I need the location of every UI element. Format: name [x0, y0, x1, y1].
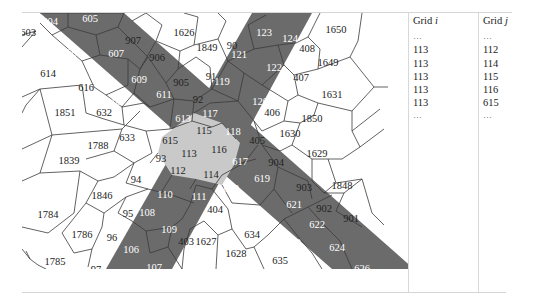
- cell-label-1788: 1788: [88, 140, 109, 151]
- cell-label-906: 906: [149, 52, 165, 63]
- cell-label-114: 114: [203, 169, 219, 180]
- grid-j-cell: …: [483, 30, 523, 43]
- cell-label-618: 618: [223, 183, 239, 194]
- grid-i-column: Grid i … 113 113 113 113 113 …: [413, 14, 473, 123]
- grid-i-cell: …: [413, 30, 473, 43]
- cell-label-1784: 1784: [38, 209, 60, 220]
- cell-label-118: 118: [225, 126, 240, 137]
- cell-label-635: 635: [272, 255, 288, 266]
- cell-label-1851: 1851: [55, 107, 76, 118]
- cell-label-407: 407: [293, 72, 309, 83]
- grid-j-header-prefix: Grid: [483, 15, 505, 26]
- grid-i-cell: 113: [413, 70, 473, 83]
- cell-label-609: 609: [131, 74, 147, 85]
- grid-j-cell: 116: [483, 83, 523, 96]
- cell-label-1630: 1630: [280, 128, 301, 139]
- cell-label-124: 124: [282, 33, 299, 44]
- cell-label-622: 622: [309, 219, 325, 230]
- cell-label-406: 406: [264, 107, 280, 118]
- cell-label-108: 108: [139, 207, 155, 218]
- grid-j-cell: 115: [483, 70, 523, 83]
- grid-j-cell: …: [483, 109, 523, 122]
- cell-label-1786: 1786: [72, 229, 93, 240]
- cell-label-408: 408: [299, 43, 315, 54]
- grid-j-header: Grid j: [483, 14, 523, 27]
- cell-label-122: 122: [266, 62, 282, 73]
- cell-label-115: 115: [196, 125, 211, 136]
- cell-label-106: 106: [123, 244, 139, 255]
- cell-label-123: 123: [256, 27, 272, 38]
- cell-label-1631: 1631: [322, 89, 343, 100]
- voronoi-grid-diagram: 6046056036066079071626184990123124408165…: [22, 13, 408, 269]
- cell-label-905: 905: [173, 77, 189, 88]
- cell-label-623: 623: [285, 237, 301, 248]
- grid-i-cell: 113: [413, 43, 473, 56]
- cell-label-119: 119: [214, 76, 229, 87]
- cell-label-95: 95: [123, 208, 134, 219]
- grid-j-cell: 615: [483, 96, 523, 109]
- cell-label-633: 633: [119, 132, 135, 143]
- table-bottom-rule: [22, 292, 506, 293]
- cell-label-625: 625: [303, 264, 319, 269]
- grid-j-cell: 114: [483, 57, 523, 70]
- cell-label-1629: 1629: [307, 148, 328, 159]
- cell-label-109: 109: [161, 224, 177, 235]
- cell-label-1650: 1650: [326, 24, 347, 35]
- cell-label-92: 92: [193, 94, 204, 105]
- cell-label-613: 613: [175, 113, 191, 124]
- cell-label-614: 614: [40, 68, 57, 79]
- cell-label-94: 94: [131, 174, 142, 185]
- cell-label-1785: 1785: [45, 256, 66, 267]
- grid-i-header-prefix: Grid: [413, 15, 435, 26]
- cell-label-604: 604: [42, 16, 59, 27]
- cell-label-903: 903: [296, 182, 312, 193]
- cell-label-616: 616: [78, 82, 94, 93]
- cell-label-612: 612: [140, 114, 156, 125]
- cell-label-111: 111: [192, 191, 207, 202]
- grid-j-header-var: j: [505, 15, 508, 26]
- cell-label-901: 901: [343, 213, 359, 224]
- cell-label-121: 121: [231, 49, 247, 60]
- cell-label-116: 116: [211, 144, 226, 155]
- cell-label-1850: 1850: [302, 113, 323, 124]
- cell-label-1839: 1839: [59, 155, 80, 166]
- cell-label-621: 621: [286, 199, 302, 210]
- cell-label-634: 634: [244, 229, 261, 240]
- cell-label-113: 113: [181, 148, 196, 159]
- cell-label-120: 120: [252, 96, 268, 107]
- cell-label-615: 615: [162, 135, 178, 146]
- cell-label-1846: 1846: [92, 190, 113, 201]
- cell-label-110: 110: [157, 189, 172, 200]
- grid-i-cell: …: [413, 109, 473, 122]
- grid-i-header-var: i: [435, 15, 438, 26]
- cell-label-1626: 1626: [174, 27, 195, 38]
- cell-label-1628: 1628: [226, 248, 247, 259]
- cell-label-97: 97: [91, 264, 102, 269]
- grid-i-header: Grid i: [413, 14, 473, 27]
- cell-label-403: 403: [178, 236, 194, 247]
- cell-label-617: 617: [232, 156, 248, 167]
- cell-label-626: 626: [354, 263, 370, 269]
- grid-i-cell: 113: [413, 83, 473, 96]
- cell-label-610: 610: [105, 96, 121, 107]
- grid-i-cell: 113: [413, 57, 473, 70]
- cell-label-93: 93: [156, 153, 167, 164]
- cell-label-1849: 1849: [197, 42, 218, 53]
- cell-label-608: 608: [89, 69, 105, 80]
- cell-label-404: 404: [207, 204, 224, 215]
- cell-label-611: 611: [156, 89, 171, 100]
- cell-label-1848: 1848: [332, 180, 353, 191]
- cell-label-1627: 1627: [196, 236, 217, 247]
- cell-label-619: 619: [254, 173, 270, 184]
- cell-label-1649: 1649: [318, 57, 339, 68]
- cell-label-605: 605: [82, 13, 98, 24]
- cell-label-620: 620: [251, 216, 267, 227]
- cell-label-632: 632: [96, 107, 112, 118]
- cell-label-112: 112: [170, 165, 185, 176]
- cell-label-904: 904: [268, 157, 285, 168]
- cell-label-624: 624: [329, 242, 346, 253]
- cell-label-107: 107: [146, 262, 162, 269]
- cell-label-607: 607: [108, 48, 124, 59]
- cell-label-96: 96: [107, 232, 118, 243]
- column-divider-1: [408, 13, 409, 292]
